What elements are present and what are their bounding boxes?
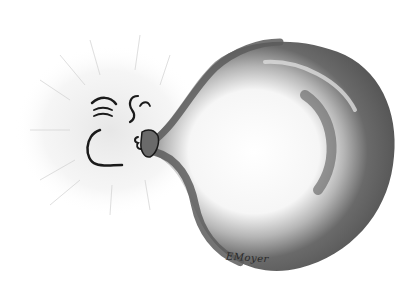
illustration: EMoyer (0, 0, 417, 290)
balloon-drawing (0, 0, 417, 290)
balloon (152, 42, 395, 271)
